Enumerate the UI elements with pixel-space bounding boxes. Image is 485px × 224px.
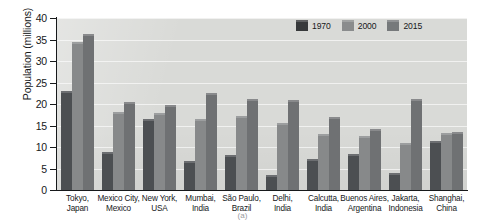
chart-legend: 1970 2000 2015	[292, 17, 426, 34]
bar-group	[262, 18, 303, 190]
y-tick-30	[50, 61, 56, 62]
y-tick-20	[50, 104, 56, 105]
bar-group	[180, 18, 221, 190]
bar	[348, 154, 359, 190]
y-tick-25	[50, 83, 56, 84]
bar	[225, 155, 236, 190]
legend-label-2015: 2015	[403, 21, 422, 31]
bar	[247, 99, 258, 190]
legend-swatch-2000	[342, 20, 354, 31]
bar	[195, 119, 206, 190]
bar	[370, 129, 381, 190]
legend-item-1970: 1970	[296, 20, 331, 31]
y-tick-label-30: 30	[7, 55, 47, 67]
bar	[83, 34, 94, 190]
y-tick-10	[50, 147, 56, 148]
bar	[72, 42, 83, 190]
bar	[441, 133, 452, 190]
x-axis-line	[56, 190, 468, 191]
bar	[184, 161, 195, 190]
bar	[307, 159, 318, 190]
y-tick-40	[50, 18, 56, 19]
y-tick-label-20: 20	[7, 98, 47, 110]
y-tick-35	[50, 40, 56, 41]
y-tick-label-25: 25	[7, 77, 47, 89]
bar	[329, 117, 340, 190]
bar	[452, 132, 463, 190]
bar-group	[426, 18, 467, 190]
legend-label-2000: 2000	[358, 21, 377, 31]
bar	[277, 123, 288, 191]
bar	[61, 91, 72, 190]
y-tick-15	[50, 126, 56, 127]
legend-label-1970: 1970	[312, 21, 331, 31]
bar-group	[139, 18, 180, 190]
bar	[400, 143, 411, 190]
bar	[154, 113, 165, 190]
bar-group	[98, 18, 139, 190]
bar	[430, 141, 441, 190]
figure-caption: (a)	[0, 211, 485, 220]
y-tick-label-5: 5	[7, 163, 47, 175]
bar-group	[303, 18, 344, 190]
bar	[318, 134, 329, 190]
bar	[359, 136, 370, 190]
bar	[143, 119, 154, 190]
y-tick-label-40: 40	[7, 12, 47, 24]
bar-group	[57, 18, 98, 190]
bar	[411, 99, 422, 190]
bar	[389, 173, 400, 190]
y-tick-label-10: 10	[7, 141, 47, 153]
y-tick-label-15: 15	[7, 120, 47, 132]
legend-item-2015: 2015	[387, 20, 422, 31]
population-bar-chart-figure: Population (millions) 0510152025303540 T…	[0, 0, 485, 224]
y-tick-0	[50, 190, 56, 191]
bar	[102, 152, 113, 190]
legend-swatch-2015	[387, 20, 399, 31]
bar	[288, 100, 299, 190]
bar-group	[221, 18, 262, 190]
y-tick-5	[50, 169, 56, 170]
bar	[236, 116, 247, 190]
bar	[165, 105, 176, 190]
legend-swatch-1970	[296, 20, 308, 31]
bar	[113, 112, 124, 190]
bar	[266, 175, 277, 190]
bar-group	[344, 18, 385, 190]
y-tick-label-35: 35	[7, 34, 47, 46]
legend-item-2000: 2000	[342, 20, 377, 31]
bar	[124, 102, 135, 190]
bar-group	[385, 18, 426, 190]
y-tick-label-0: 0	[7, 184, 47, 196]
bar	[206, 93, 217, 190]
